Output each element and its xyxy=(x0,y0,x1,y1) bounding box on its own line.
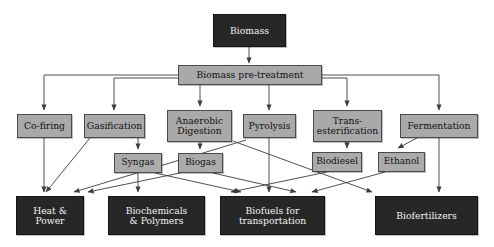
node-label: Biochemicals& Polymers xyxy=(124,206,190,226)
node-label: Heat &Power xyxy=(31,206,69,226)
node-label: Biogas xyxy=(183,158,218,168)
edge-fermentation-to-ethanol xyxy=(398,138,417,148)
node-syngas[interactable]: Syngas xyxy=(114,153,162,173)
edge-gasification-to-heatpower xyxy=(46,138,90,192)
node-label: Gasification xyxy=(85,121,144,131)
node-label: Biofertilizers xyxy=(394,211,458,221)
biomass-pathways-diagram: Biomass Biomass pre-treatment Co-firing … xyxy=(0,0,494,247)
node-label: Syngas xyxy=(120,158,157,168)
node-transesterification[interactable]: Trans-esterification xyxy=(313,110,382,142)
node-anaerobic-digestion[interactable]: AnaerobicDigestion xyxy=(167,110,232,142)
node-label: Ethanol xyxy=(382,157,421,167)
node-label: AnaerobicDigestion xyxy=(174,116,225,136)
node-label: Pyrolysis xyxy=(247,121,293,131)
node-label: Co-firing xyxy=(22,121,67,131)
node-ethanol[interactable]: Ethanol xyxy=(378,152,425,172)
node-biomass[interactable]: Biomass xyxy=(213,14,286,47)
node-biofertilizers[interactable]: Biofertilizers xyxy=(375,196,478,235)
edge-biodiesel-to-biofuels xyxy=(231,172,327,192)
edge-pretreatment-to-cofiring xyxy=(44,75,178,110)
node-biomass-pre-treatment[interactable]: Biomass pre-treatment xyxy=(178,65,322,85)
node-gasification[interactable]: Gasification xyxy=(84,114,145,138)
edge-pretreatment-to-gasification xyxy=(114,78,178,110)
node-biofuels-for-transportation[interactable]: Biofuels fortransportation xyxy=(220,196,325,235)
node-label: Trans-esterification xyxy=(315,116,380,136)
edge-ethanol-to-biofuels xyxy=(312,172,385,192)
node-heat-and-power[interactable]: Heat &Power xyxy=(16,196,84,235)
node-biodiesel[interactable]: Biodiesel xyxy=(312,152,362,172)
node-co-firing[interactable]: Co-firing xyxy=(17,114,72,138)
node-label: Biofuels fortransportation xyxy=(237,206,308,226)
node-biogas[interactable]: Biogas xyxy=(178,153,223,173)
node-fermentation[interactable]: Fermentation xyxy=(400,114,478,138)
edge-biogas-to-biofuels xyxy=(213,173,296,192)
node-label: Biomass xyxy=(228,26,271,36)
node-pyrolysis[interactable]: Pyrolysis xyxy=(243,114,296,138)
node-label: Biodiesel xyxy=(314,157,360,167)
node-label: Fermentation xyxy=(405,121,472,131)
node-biochemicals-and-polymers[interactable]: Biochemicals& Polymers xyxy=(108,196,205,235)
node-label: Biomass pre-treatment xyxy=(194,70,305,80)
edge-biogas-to-heatpower xyxy=(88,173,180,192)
edge-pretreatment-to-transesterification xyxy=(322,78,347,106)
edge-pretreatment-to-fermentation xyxy=(322,75,439,110)
